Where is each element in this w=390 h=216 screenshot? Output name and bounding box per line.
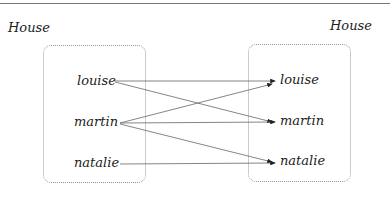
arrow-martin-louise [120, 84, 272, 123]
arrow-louise-martin [115, 82, 272, 122]
arrow-natalie-natalie [120, 163, 275, 164]
arrow-martin-natalie [120, 124, 272, 162]
mapping-arrows [0, 0, 390, 216]
arrow-martin-martin [120, 122, 275, 123]
